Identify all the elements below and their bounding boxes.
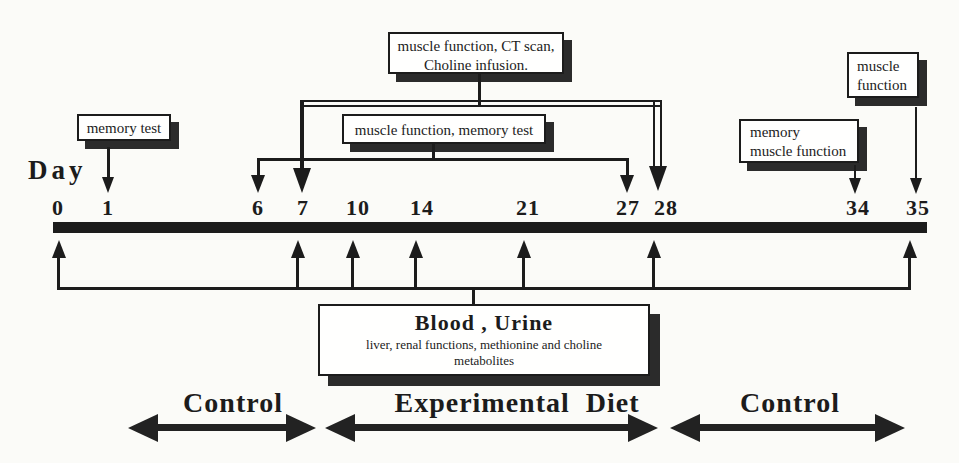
tick-day-28: 28 <box>654 195 678 221</box>
phase-arrow-shaft <box>353 424 630 431</box>
connector-line <box>653 102 655 166</box>
annotation-box-memory-test: memory test <box>77 114 171 141</box>
phase-label-control-2: Control <box>740 387 840 419</box>
phase-label-control-1: Control <box>183 387 283 419</box>
tick-day-34: 34 <box>846 195 870 221</box>
connector-line <box>522 256 525 288</box>
annotation-text: function <box>857 76 917 95</box>
arrowhead-up-day-7 <box>291 240 305 258</box>
arrowhead-up-day-14 <box>409 240 423 258</box>
connector-line <box>107 147 110 178</box>
tick-day-21: 21 <box>516 195 540 221</box>
bracket-ct-scan <box>300 100 662 107</box>
annotation-text: memory test <box>87 120 162 136</box>
connector-line <box>908 256 911 288</box>
bracket-blood-urine <box>57 287 911 290</box>
tick-day-14: 14 <box>410 195 434 221</box>
annotation-box-muscle-function: muscle function <box>847 52 919 98</box>
connector-line <box>57 256 60 288</box>
phase-arrow-shaft <box>698 424 877 431</box>
connector-line <box>414 256 417 288</box>
connector-line <box>296 256 299 288</box>
phase-arrowhead-left <box>670 414 700 442</box>
annotation-text: muscle function <box>750 142 857 161</box>
phase-arrowhead-right <box>628 414 658 442</box>
annotation-box-blood-urine: Blood , Urine liver, renal functions, me… <box>318 304 650 376</box>
tick-day-35: 35 <box>906 195 930 221</box>
connector-line <box>915 107 917 179</box>
arrowhead-down-day-34 <box>849 178 861 194</box>
tick-day-0: 0 <box>52 195 64 221</box>
annotation-text: memory <box>750 123 857 142</box>
tick-day-27: 27 <box>616 195 640 221</box>
tick-day-10: 10 <box>346 195 370 221</box>
annotation-text: metabolites <box>320 353 648 369</box>
connector-line <box>626 158 629 176</box>
timeline-bar <box>53 222 927 233</box>
annotation-box-muscle-memory: muscle function, memory test <box>342 114 546 144</box>
connector-line <box>652 256 655 288</box>
arrowhead-up-day-21 <box>517 240 531 258</box>
connector-line <box>257 158 260 176</box>
annotation-text: muscle function, CT scan, <box>390 37 562 56</box>
bracket-muscle-memory <box>257 158 629 161</box>
arrowhead-down-day-27 <box>620 175 634 193</box>
tick-day-6: 6 <box>252 195 264 221</box>
arrowhead-up-day-0 <box>52 240 66 258</box>
tick-day-7: 7 <box>297 195 309 221</box>
arrowhead-up-day-28 <box>647 240 661 258</box>
connector-line <box>660 102 662 166</box>
annotation-text: liver, renal functions, methionine and c… <box>320 337 648 353</box>
arrowhead-up-day-10 <box>346 240 360 258</box>
annotation-text: muscle <box>857 57 917 76</box>
tick-day-1: 1 <box>102 195 114 221</box>
arrowhead-down-day-6 <box>251 175 265 193</box>
phase-arrow-shaft <box>156 424 288 431</box>
arrowhead-down-day-35 <box>910 178 922 194</box>
phase-arrowhead-left <box>128 414 158 442</box>
day-axis-label: Day <box>28 155 87 186</box>
phase-arrowhead-right <box>286 414 316 442</box>
phase-arrowhead-right <box>875 414 905 442</box>
arrowhead-down-day-28 <box>649 166 667 191</box>
annotation-text: muscle function, memory test <box>355 122 533 138</box>
connector-line <box>854 165 856 179</box>
arrowhead-up-day-35 <box>903 240 917 258</box>
arrowhead-down-day-7 <box>293 168 311 193</box>
phase-arrowhead-left <box>325 414 355 442</box>
annotation-box-ct-scan: muscle function, CT scan, Choline infusi… <box>388 32 564 74</box>
connector-line <box>351 256 354 288</box>
arrowhead-down-day-1 <box>102 177 114 193</box>
annotation-text: Choline infusion. <box>390 56 562 75</box>
study-timeline-diagram: muscle function, CT scan, Choline infusi… <box>0 0 959 463</box>
annotation-box-memory-muscle: memory muscle function <box>739 119 859 163</box>
annotation-title: Blood , Urine <box>320 309 648 337</box>
phase-label-experimental-diet: Experimental Diet <box>394 387 639 419</box>
